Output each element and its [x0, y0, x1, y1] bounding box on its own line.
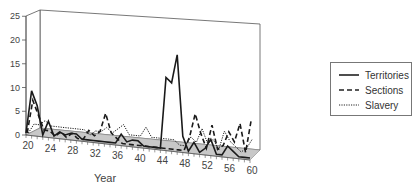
y-tick-label: 20 — [10, 35, 20, 45]
x-tick-label: 40 — [134, 153, 146, 164]
back-wall — [40, 10, 260, 150]
x-axis-label: Year — [94, 172, 117, 184]
solid-line-icon — [339, 72, 359, 78]
y-tick-label: 15 — [10, 59, 20, 69]
x-tick-label: 20 — [22, 140, 34, 151]
x-tick-label: 44 — [157, 155, 169, 166]
x-tick-label: 28 — [67, 145, 79, 156]
y-tick-label: 0 — [15, 130, 20, 140]
legend-item-sections: Sections — [339, 83, 403, 97]
y-tick-label: 25 — [10, 11, 20, 21]
y-axis-ticks: 0510152025 — [10, 11, 26, 140]
x-tick-label: 48 — [179, 158, 191, 169]
dashed-line-icon — [339, 87, 359, 93]
y-tick-label: 10 — [10, 83, 20, 93]
x-tick-label: 36 — [112, 150, 124, 161]
x-tick-label: 52 — [202, 160, 214, 171]
line-chart: 0510152025 2024283236404448525660 Year — [0, 0, 270, 188]
dotted-line-icon — [339, 102, 359, 108]
legend-item-territories: Territories — [339, 68, 409, 82]
x-tick-label: 60 — [246, 165, 258, 176]
x-tick-label: 32 — [90, 148, 102, 159]
x-tick-label: 24 — [45, 143, 57, 154]
legend-item-slavery: Slavery — [339, 98, 398, 112]
legend: Territories Sections Slavery — [330, 62, 412, 116]
x-tick-label: 56 — [224, 163, 236, 174]
y-tick-label: 5 — [15, 106, 20, 116]
